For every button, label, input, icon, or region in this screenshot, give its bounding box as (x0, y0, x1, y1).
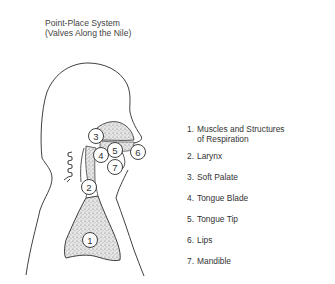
legend-num: 6. (187, 235, 197, 245)
lungs-region (65, 196, 121, 261)
marker-4: 4 (94, 148, 109, 163)
legend-item-4: 4.Tongue Blade (187, 193, 248, 203)
marker-6: 6 (131, 145, 146, 160)
marker-5: 5 (108, 143, 123, 158)
legend-num: 2. (187, 151, 197, 161)
svg-text:4: 4 (98, 150, 103, 161)
marker-2: 2 (82, 180, 97, 195)
legend-text: Muscles and Structures (197, 124, 285, 134)
neck-back-outline (26, 158, 52, 275)
spine-vertebrae (64, 152, 72, 182)
legend-text: Tongue Tip (197, 214, 238, 224)
legend-num: 1. (187, 124, 197, 134)
legend-item-2: 2.Larynx (187, 151, 222, 161)
legend-num: 5. (187, 214, 197, 224)
marker-1: 1 (83, 233, 98, 248)
legend-text-cont: of Respiration (187, 134, 285, 144)
marker-3: 3 (89, 129, 104, 144)
legend-num: 4. (187, 193, 197, 203)
legend-item-3: 3.Soft Palate (187, 172, 238, 182)
legend-num: 7. (187, 256, 197, 266)
svg-text:2: 2 (86, 182, 91, 193)
legend-item-7: 7.Mandible (187, 256, 231, 266)
svg-text:6: 6 (135, 147, 140, 158)
vocal-tract-illustration: 1 2 3 4 5 6 7 (0, 0, 335, 284)
legend-text: Larynx (197, 151, 222, 161)
legend-item-5: 5.Tongue Tip (187, 214, 238, 224)
legend-num: 3. (187, 172, 197, 182)
svg-text:3: 3 (93, 131, 98, 142)
legend-text: Soft Palate (197, 172, 238, 182)
legend-text: Mandible (197, 256, 231, 266)
svg-text:5: 5 (112, 145, 117, 156)
svg-text:1: 1 (87, 235, 92, 246)
marker-7: 7 (108, 160, 123, 175)
svg-text:7: 7 (112, 162, 117, 173)
pharynx-wall (81, 148, 84, 182)
legend-item-1: 1.Muscles and Structures of Respiration (187, 124, 285, 144)
legend-text: Tongue Blade (197, 193, 248, 203)
legend-text: Lips (197, 235, 212, 245)
legend-item-6: 6.Lips (187, 235, 212, 245)
